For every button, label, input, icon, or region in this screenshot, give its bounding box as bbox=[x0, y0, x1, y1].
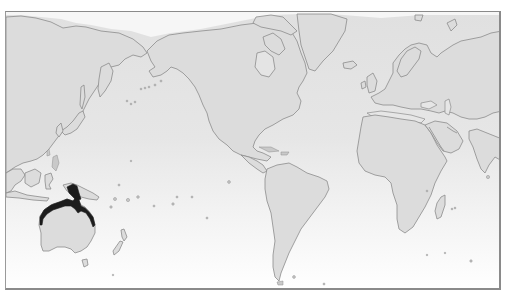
world-map bbox=[5, 11, 501, 290]
ireland bbox=[361, 81, 366, 89]
sri-lanka bbox=[486, 175, 489, 178]
map-canvas bbox=[6, 12, 501, 290]
south-georgia bbox=[323, 283, 325, 285]
tierra-del-fuego bbox=[277, 281, 283, 285]
falkland-islands bbox=[293, 276, 296, 279]
